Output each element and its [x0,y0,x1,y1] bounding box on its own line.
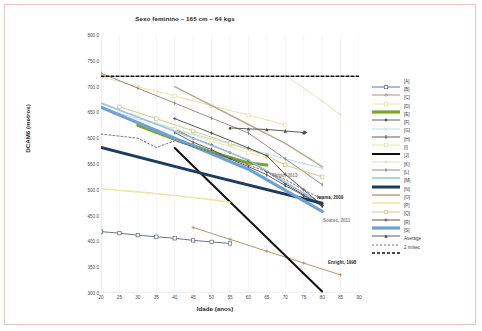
legend-label: [Q] [401,211,410,216]
legend-item[interactable]: [E] [371,110,475,118]
x-tick-label: 80 [313,295,331,300]
plot-svg [101,35,359,293]
legend-label: [I] [401,145,408,150]
y-tick-label: 700.0 [73,84,99,89]
legend-item[interactable]: [S] [371,226,475,234]
legend-label: [N] [401,187,410,192]
legend-label: [M] [401,178,410,183]
data-marker [118,105,121,108]
legend-label: [P] [401,203,410,208]
data-marker [173,237,176,240]
legend-swatch [371,218,401,226]
plot-area [101,35,359,293]
legend-label: [R] [401,220,410,225]
x-tick-label: 20 [92,295,110,300]
legend-swatch [371,127,401,135]
legend-swatch [371,119,401,127]
legend-item[interactable]: [L] [371,168,475,176]
legend-item[interactable]: 2 m/sec [371,243,475,251]
legend-swatch [371,210,401,218]
legend-item[interactable]: [P] [371,201,475,209]
x-tick-label: 55 [221,295,239,300]
legend-item[interactable]: [Q] [371,210,475,218]
legend-item[interactable]: [K] [371,160,475,168]
series-arrowhead [304,130,308,134]
legend-label: [D] [401,104,410,109]
legend-label: [H] [401,137,410,142]
legend-label: [B] [401,87,410,92]
data-marker [320,175,323,178]
legend-item[interactable]: [R] [371,218,475,226]
legend-item[interactable]: [O] [371,193,475,201]
data-marker [302,261,305,264]
series-line [101,189,230,202]
legend-swatch [371,85,401,93]
legend-item[interactable]: [N] [371,185,475,193]
y-axis-ticks: 300.0350.0400.0450.0500.0550.0600.0650.0… [73,35,99,293]
data-marker [191,226,194,229]
data-marker [210,139,213,142]
legend-label: Average [401,236,421,241]
legend-item[interactable]: [C] [371,94,475,102]
legend-swatch [371,110,401,118]
legend-item[interactable]: [I] [371,143,475,151]
legend-label: 2 m/sec [401,245,420,250]
series-a [101,230,232,245]
data-marker [247,151,250,154]
legend-item[interactable]: [J] [371,152,475,160]
x-tick-label: 70 [276,295,294,300]
y-tick-label: 500.0 [73,187,99,192]
legend-item[interactable]: [A] [371,77,475,85]
legend-label: [O] [401,195,410,200]
legend-swatch [371,77,401,85]
data-marker [191,129,194,132]
y-tick-label: 800.0 [73,33,99,38]
x-tick-label: 50 [203,295,221,300]
legend-item[interactable]: Average [371,235,475,243]
legend-swatch [371,193,401,201]
legend-swatch [371,185,401,193]
chart-annotation: Britto, 2013 [273,173,298,178]
chart-annotation: Enright, 1998 [328,260,356,265]
legend-label: [A] [401,79,410,84]
series-line [285,75,340,115]
legend-label: [G] [401,128,410,133]
y-tick-label: 450.0 [73,213,99,218]
chart-figure: Sexo feminino – 165 cm – 64 kgs DCAM6 (m… [5,5,475,324]
legend-swatch [371,243,401,251]
legend-label: [F] [401,120,409,125]
legend-item[interactable]: [B] [371,85,475,93]
data-marker [155,117,158,120]
legend-label: [E] [401,112,410,117]
x-tick-label: 45 [184,295,202,300]
legend-item[interactable]: [M] [371,177,475,185]
legend-label: [C] [401,95,410,100]
legend-swatch [371,160,401,168]
data-marker [210,131,213,134]
x-tick-label: 75 [295,295,313,300]
x-tick-label: 35 [147,295,165,300]
legend-item[interactable]: [F] [371,118,475,126]
x-tick-label: 85 [332,295,350,300]
x-axis-label: Idade (anos) [65,305,365,312]
legend-swatch [371,102,401,110]
data-marker [228,142,231,145]
legend-item[interactable]: [H] [371,135,475,143]
legend-swatch [371,94,401,102]
x-tick-label: 90 [350,295,368,300]
legend-swatch [371,202,401,210]
y-tick-label: 400.0 [73,239,99,244]
chart-annotation: Iwama, 2009 [317,195,343,200]
data-marker [284,163,287,166]
x-axis-ticks: 202530354045505560657075808590 [101,295,359,305]
legend-item[interactable]: [G] [371,127,475,135]
x-tick-label: 65 [258,295,276,300]
legend-item[interactable]: [D] [371,102,475,110]
legend-label: [S] [401,228,410,233]
data-marker [136,234,139,237]
data-marker [173,117,176,120]
y-tick-label: 750.0 [73,58,99,63]
data-marker [101,230,103,233]
y-tick-label: 350.0 [73,265,99,270]
data-marker [228,242,231,245]
